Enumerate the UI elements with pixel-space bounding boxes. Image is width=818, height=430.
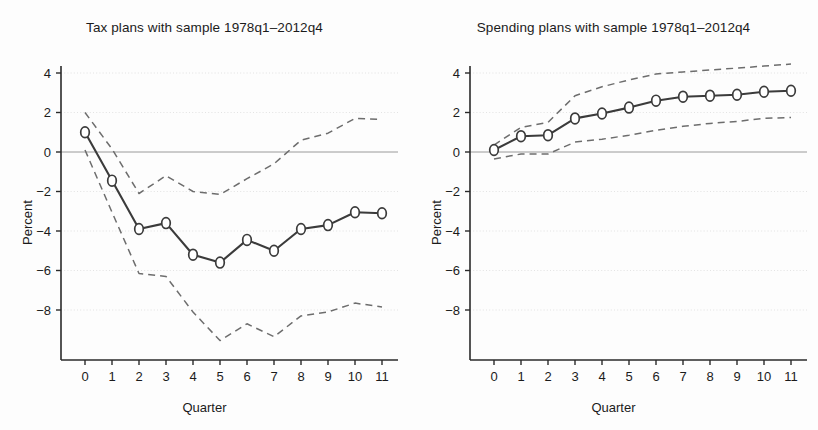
x-tick-label-tax: 4: [189, 369, 196, 384]
y-tick-label-spending: −8: [445, 303, 460, 318]
y-tick-label-tax: −6: [36, 263, 51, 278]
data-point-marker: [162, 218, 171, 229]
panel-tax-plans: Tax plans with sample 1978q1–2012q4 420−…: [0, 0, 409, 430]
data-point-marker: [216, 257, 225, 268]
x-tick-label-spending: 3: [571, 369, 578, 384]
x-tick-label-spending: 9: [733, 369, 740, 384]
data-point-marker: [760, 86, 769, 97]
y-tick-label-spending: 2: [453, 105, 460, 120]
data-point-marker: [517, 131, 526, 142]
data-point-marker: [679, 91, 688, 102]
figure-canvas: Tax plans with sample 1978q1–2012q4 420−…: [0, 0, 818, 430]
data-point-marker: [324, 220, 333, 231]
data-point-marker: [135, 224, 144, 235]
x-tick-label-spending: 6: [652, 369, 659, 384]
x-tick-label-spending: 4: [598, 369, 605, 384]
x-tick-label-spending: 10: [757, 369, 771, 384]
y-tick-label-spending: 0: [453, 145, 460, 160]
data-point-marker: [787, 85, 796, 96]
data-point-marker: [490, 145, 499, 156]
x-tick-label-spending: 5: [625, 369, 632, 384]
y-tick-label-spending: −6: [445, 263, 460, 278]
plot-area-spending: 420−2−4−6−801234567891011: [409, 0, 818, 430]
data-point-marker: [706, 90, 715, 101]
data-point-marker: [243, 234, 252, 245]
data-point-marker: [625, 102, 634, 113]
x-tick-label-tax: 11: [375, 369, 389, 384]
data-point-marker: [378, 208, 387, 219]
x-tick-label-spending: 1: [517, 369, 524, 384]
x-tick-label-tax: 2: [135, 369, 142, 384]
x-axis-title-tax: Quarter: [0, 400, 409, 415]
x-tick-label-spending: 2: [544, 369, 551, 384]
data-point-marker: [598, 108, 607, 119]
y-tick-label-tax: −8: [36, 303, 51, 318]
plot-area-tax: 420−2−4−6−801234567891011: [0, 0, 409, 430]
y-tick-label-spending: −4: [445, 224, 460, 239]
y-tick-label-tax: 2: [44, 105, 51, 120]
y-tick-label-tax: −2: [36, 184, 51, 199]
y-axis-title-tax: Percent: [20, 200, 35, 245]
x-tick-label-spending: 11: [784, 369, 798, 384]
data-point-marker: [733, 89, 742, 100]
data-point-marker: [571, 113, 580, 124]
data-point-marker: [652, 95, 661, 106]
y-tick-label-spending: 4: [453, 66, 460, 81]
x-tick-label-spending: 8: [706, 369, 713, 384]
data-point-marker: [544, 130, 553, 141]
y-axis-title-spending: Percent: [429, 200, 444, 245]
x-tick-label-tax: 9: [324, 369, 331, 384]
x-tick-label-tax: 0: [81, 369, 88, 384]
confidence-band-upper: [85, 113, 382, 195]
data-point-marker: [108, 175, 117, 186]
x-tick-label-tax: 3: [162, 369, 169, 384]
confidence-band-lower: [85, 150, 382, 341]
x-tick-label-spending: 0: [490, 369, 497, 384]
x-tick-label-tax: 1: [108, 369, 115, 384]
y-tick-label-tax: 4: [44, 66, 51, 81]
x-axis-title-spending: Quarter: [409, 400, 818, 415]
x-tick-label-tax: 7: [270, 369, 277, 384]
data-point-marker: [351, 207, 360, 218]
data-point-marker: [270, 245, 279, 256]
x-tick-label-tax: 8: [297, 369, 304, 384]
x-tick-label-tax: 10: [348, 369, 362, 384]
data-point-marker: [189, 249, 198, 260]
y-tick-label-tax: −4: [36, 224, 51, 239]
x-tick-label-spending: 7: [679, 369, 686, 384]
y-tick-label-spending: −2: [445, 184, 460, 199]
panel-spending-plans: Spending plans with sample 1978q1–2012q4…: [409, 0, 818, 430]
x-tick-label-tax: 5: [216, 369, 223, 384]
x-tick-label-tax: 6: [243, 369, 250, 384]
data-point-marker: [297, 224, 306, 235]
y-tick-label-tax: 0: [44, 145, 51, 160]
data-point-marker: [81, 127, 90, 138]
